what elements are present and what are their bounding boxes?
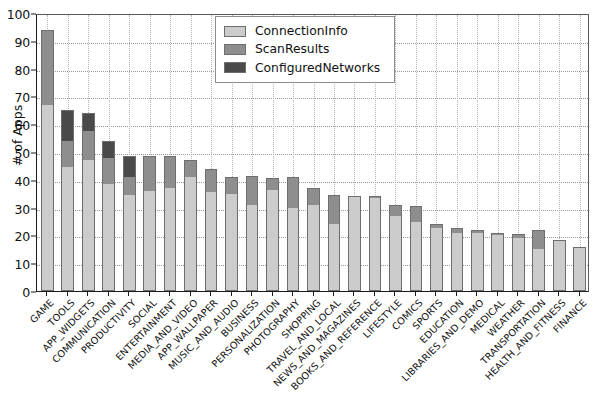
chart-legend: ConnectionInfoScanResultsConfiguredNetwo… xyxy=(215,16,395,83)
bar-segment-connectioninfo xyxy=(287,208,300,291)
y-tick-label: 10 xyxy=(14,257,30,272)
bar-shopping xyxy=(307,188,320,291)
x-tick-mark xyxy=(272,292,273,296)
bar-game xyxy=(41,30,54,291)
x-tick-mark xyxy=(374,292,375,296)
legend-label: ConnectionInfo xyxy=(255,24,348,38)
x-tick-mark xyxy=(149,292,150,296)
bar-segment-configurednetworks xyxy=(123,156,136,177)
bar-segment-connectioninfo xyxy=(102,184,115,291)
bar-business xyxy=(246,176,259,291)
x-tick-mark xyxy=(497,292,498,296)
stacked-bar-chart-figure: 0102030405060708090100 # of Apps GAMETOO… xyxy=(0,0,594,410)
x-tick-mark xyxy=(333,292,334,296)
bar-segment-scanresults xyxy=(82,131,95,160)
x-tick-mark xyxy=(415,292,416,296)
legend-label: ScanResults xyxy=(255,42,329,56)
y-tick-label: 30 xyxy=(14,201,30,216)
legend-label: ConfiguredNetworks xyxy=(255,61,380,75)
bar-segment-connectioninfo xyxy=(532,249,545,291)
bar-photography xyxy=(287,177,300,291)
bar-segment-scanresults xyxy=(61,141,74,167)
bar-sports xyxy=(430,224,443,291)
bar-social xyxy=(143,156,156,291)
bar-segment-configurednetworks xyxy=(82,113,95,131)
x-tick-mark xyxy=(538,292,539,296)
y-tick-label: 80 xyxy=(14,62,30,77)
x-tick-mark xyxy=(476,292,477,296)
bar-segment-connectioninfo xyxy=(225,194,238,291)
y-tick-label: 0 xyxy=(22,285,30,300)
bar-segment-connectioninfo xyxy=(61,167,74,291)
bar-health-and-fitness xyxy=(553,240,566,291)
legend-swatch-icon xyxy=(224,62,246,73)
bar-segment-connectioninfo xyxy=(573,247,586,291)
bar-segment-connectioninfo xyxy=(328,224,341,291)
bar-segment-scanresults xyxy=(102,158,115,184)
y-tick-label: 100 xyxy=(7,7,30,22)
bar-transportation xyxy=(532,230,545,291)
bar-finance xyxy=(573,247,586,291)
bar-segment-configurednetworks xyxy=(61,110,74,141)
bar-comics xyxy=(410,206,423,291)
legend-item-connectioninfo: ConnectionInfo xyxy=(224,23,387,40)
bar-segment-scanresults xyxy=(410,206,423,221)
x-tick-mark xyxy=(128,292,129,296)
bar-segment-scanresults xyxy=(307,188,320,205)
bar-segment-scanresults xyxy=(389,205,402,216)
bar-segment-connectioninfo xyxy=(553,241,566,291)
x-axis: GAMETOOLSAPP_WIDGETSCOMMUNICATIONPRODUCT… xyxy=(36,292,589,410)
bar-segment-configurednetworks xyxy=(102,141,115,158)
x-tick-mark xyxy=(87,292,88,296)
bar-segment-connectioninfo xyxy=(512,238,525,291)
bar-segment-connectioninfo xyxy=(143,191,156,291)
bar-segment-connectioninfo xyxy=(123,195,136,291)
legend-swatch-icon xyxy=(224,44,246,55)
bar-travel-and-local xyxy=(328,195,341,291)
bar-segment-scanresults xyxy=(225,177,238,194)
bar-segment-connectioninfo xyxy=(369,198,382,291)
bar-segment-connectioninfo xyxy=(348,196,361,291)
bar-segment-scanresults xyxy=(143,156,156,191)
x-tick-mark xyxy=(456,292,457,296)
bar-segment-connectioninfo xyxy=(184,177,197,291)
bar-segment-connectioninfo xyxy=(389,216,402,291)
bar-segment-connectioninfo xyxy=(82,160,95,291)
y-tick-label: 20 xyxy=(14,229,30,244)
x-tick-mark xyxy=(251,292,252,296)
bar-news-and-magazines xyxy=(348,196,361,291)
x-tick-mark xyxy=(292,292,293,296)
bar-segment-scanresults xyxy=(41,30,54,105)
bar-productivity xyxy=(123,156,136,291)
bar-segment-scanresults xyxy=(164,156,177,188)
bar-segment-scanresults xyxy=(328,195,341,224)
bar-segment-connectioninfo xyxy=(491,235,504,291)
bar-communication xyxy=(102,141,115,291)
bar-app-widgets xyxy=(82,113,95,291)
bar-app-wallpaper xyxy=(205,169,218,291)
legend-item-configurednetworks: ConfiguredNetworks xyxy=(224,59,387,76)
legend-item-scanresults: ScanResults xyxy=(224,41,387,58)
bar-segment-connectioninfo xyxy=(430,228,443,291)
bar-segment-connectioninfo xyxy=(164,188,177,291)
x-tick-mark xyxy=(231,292,232,296)
x-tick-mark xyxy=(46,292,47,296)
legend-swatch-icon xyxy=(224,26,246,37)
bar-segment-scanresults xyxy=(287,177,300,208)
bar-segment-connectioninfo xyxy=(246,205,259,291)
bar-tools xyxy=(61,110,74,291)
x-tick-mark xyxy=(558,292,559,296)
bar-segment-connectioninfo xyxy=(410,222,423,292)
bar-segment-connectioninfo xyxy=(451,233,464,291)
bar-entertainment xyxy=(164,156,177,291)
bar-segment-connectioninfo xyxy=(471,233,484,291)
x-tick-mark xyxy=(313,292,314,296)
bar-segment-scanresults xyxy=(205,169,218,193)
bar-education xyxy=(451,228,464,291)
bar-personalization xyxy=(266,178,279,291)
x-tick-mark xyxy=(169,292,170,296)
x-tick-mark xyxy=(579,292,580,296)
bar-segment-connectioninfo xyxy=(307,205,320,291)
bar-segment-scanresults xyxy=(123,177,136,195)
x-tick-mark xyxy=(394,292,395,296)
